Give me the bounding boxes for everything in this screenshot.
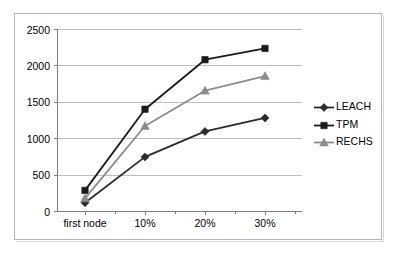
x-label-10-percent: 10% <box>134 217 155 229</box>
legend-label-rechs: RECHS <box>336 135 373 147</box>
series-leach <box>81 114 269 207</box>
data-point-leach-3 <box>261 114 269 122</box>
legend-item-rechs[interactable]: RECHS <box>314 135 373 147</box>
data-point-tpm-1 <box>142 106 148 112</box>
data-point-leach-2 <box>201 127 209 135</box>
legend-marker-tpm <box>314 122 334 128</box>
data-point-rechs-1 <box>141 122 150 130</box>
legend-item-tpm[interactable]: TPM <box>314 118 358 130</box>
data-point-tpm-0 <box>82 187 88 193</box>
data-point-tpm-3 <box>262 45 268 51</box>
legend-marker-rechs <box>314 138 334 146</box>
y-axis-labels: 2500 2000 1500 1000 500 0 <box>27 24 51 218</box>
series-tpm <box>82 45 268 193</box>
series-rechs <box>81 72 270 202</box>
x-axis-labels: first node 10% 20% 30% <box>63 217 275 229</box>
series-line-leach <box>85 118 265 203</box>
x-label-first-node: first node <box>63 217 106 229</box>
data-point-rechs-3 <box>261 72 270 80</box>
legend-symbol-leach <box>320 104 328 112</box>
legend-label-leach: LEACH <box>336 100 371 112</box>
legend-item-leach[interactable]: LEACH <box>314 100 371 112</box>
y-label-1000: 1000 <box>27 133 51 145</box>
y-label-0: 0 <box>44 206 50 218</box>
legend-label-tpm: TPM <box>336 118 358 130</box>
y-label-2500: 2500 <box>27 24 51 36</box>
series-line-tpm <box>85 48 265 190</box>
legend-symbol-tpm <box>321 122 327 128</box>
data-point-tpm-2 <box>202 57 208 63</box>
x-tick-marks <box>85 212 295 216</box>
y-label-1500: 1500 <box>27 96 51 108</box>
y-label-2000: 2000 <box>27 60 51 72</box>
x-label-30-percent: 30% <box>254 217 275 229</box>
legend-marker-leach <box>314 104 334 112</box>
chart-container: 2500 2000 1500 1000 500 0 first node 10%… <box>0 0 396 254</box>
y-label-500: 500 <box>32 169 50 181</box>
chart-legend: LEACH TPM RECHS <box>314 100 373 147</box>
series-layer <box>81 45 270 207</box>
x-label-20-percent: 20% <box>194 217 215 229</box>
line-chart-plot: 2500 2000 1500 1000 500 0 first node 10%… <box>0 0 396 254</box>
series-line-rechs <box>85 76 265 198</box>
y-tick-marks <box>54 30 57 212</box>
